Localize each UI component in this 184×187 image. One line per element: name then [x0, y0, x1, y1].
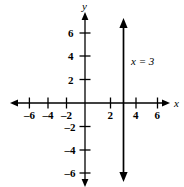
y-tick-label--6: –6	[65, 168, 76, 179]
x-axis-arrow-left-icon	[10, 100, 18, 107]
x-axis-arrow-right-icon	[162, 100, 170, 107]
x-tick-label--2: –2	[61, 110, 72, 121]
x-axis-label: x	[174, 98, 179, 109]
x-tick-label--6: –6	[24, 110, 35, 121]
y-tick-label-2: 2	[68, 75, 74, 86]
y-tick-label-6: 6	[68, 28, 74, 39]
x-tick-label-4: 4	[133, 110, 139, 121]
graph-canvas	[0, 0, 184, 187]
y-tick-label--4: –4	[65, 145, 76, 156]
y-axis	[82, 12, 89, 187]
x-tick-label-6: 6	[155, 110, 161, 121]
y-axis-arrow-up-icon	[82, 12, 89, 20]
y-tick-label--2: –2	[65, 122, 76, 133]
coordinate-plane-figure: –6 –4 –2 2 4 6 6 4 2 –2 –4 –6 x y x = 3	[0, 0, 184, 187]
x-tick-label-2: 2	[108, 110, 114, 121]
y-axis-label: y	[82, 1, 87, 12]
line-equation-label: x = 3	[131, 56, 154, 67]
x-axis	[10, 100, 170, 107]
line-arrow-up-icon	[119, 18, 127, 28]
y-axis-arrow-down-icon	[82, 179, 89, 187]
plotted-line-x-equals-3	[119, 18, 127, 182]
y-tick-label-4: 4	[68, 51, 74, 62]
line-arrow-down-icon	[119, 172, 127, 182]
x-tick-label--4: –4	[43, 110, 54, 121]
